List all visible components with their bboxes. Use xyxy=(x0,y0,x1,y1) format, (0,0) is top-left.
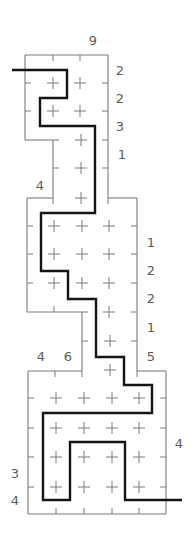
cross-mark xyxy=(50,392,62,404)
cross-mark xyxy=(103,248,115,260)
cross-mark xyxy=(106,422,118,434)
cross-mark xyxy=(106,451,118,463)
cross-mark xyxy=(75,134,87,146)
cross-mark xyxy=(133,392,145,404)
clue-number-right-10: 4 xyxy=(175,436,183,451)
clue-number-right-3: 3 xyxy=(116,119,124,134)
cross-mark xyxy=(106,481,118,493)
clue-number-right-7: 2 xyxy=(147,291,155,306)
cross-mark xyxy=(76,220,88,232)
clue-number-right-6: 2 xyxy=(147,263,155,278)
cross-mark xyxy=(48,248,60,260)
cross-mark xyxy=(75,162,87,174)
clue-number-right-2: 2 xyxy=(116,91,124,106)
cross-mark xyxy=(50,481,62,493)
clue-number-left-3: 3 xyxy=(11,466,19,481)
cross-mark xyxy=(75,192,87,204)
cross-mark xyxy=(78,481,90,493)
cross-mark xyxy=(78,392,90,404)
cross-mark xyxy=(103,277,115,289)
clue-number-right-5: 1 xyxy=(147,235,155,250)
cross-mark xyxy=(106,392,118,404)
path-puzzle-diagram: 9223141221546434 xyxy=(0,0,193,553)
clue-number-top-4: 4 xyxy=(37,349,45,364)
cross-mark xyxy=(50,451,62,463)
clue-number-right-1: 2 xyxy=(116,63,124,78)
solution-path-line xyxy=(12,70,182,500)
cross-mark xyxy=(78,422,90,434)
grid-outline xyxy=(25,55,166,514)
clue-number-right-8: 1 xyxy=(147,320,155,335)
clue-number-right-9: 5 xyxy=(147,349,155,364)
cross-mark xyxy=(78,451,90,463)
cross-mark xyxy=(103,306,115,318)
cross-mark xyxy=(48,220,60,232)
cross-mark xyxy=(76,248,88,260)
cross-mark xyxy=(133,481,145,493)
clue-number-left-4b: 4 xyxy=(11,493,19,508)
cross-mark xyxy=(74,77,86,89)
edge-ticks xyxy=(25,55,166,514)
cross-mark xyxy=(104,364,116,376)
cross-mark xyxy=(47,77,59,89)
cross-mark xyxy=(50,422,62,434)
cross-mark xyxy=(48,277,60,289)
clue-number-right-4: 1 xyxy=(118,147,126,162)
cross-mark xyxy=(76,277,88,289)
cross-mark xyxy=(104,335,116,347)
cross-mark xyxy=(74,105,86,117)
clue-number-top-9: 9 xyxy=(89,33,97,48)
clue-number-left-4a: 4 xyxy=(36,178,44,193)
clue-number-top-6: 6 xyxy=(64,349,72,364)
cross-mark xyxy=(47,105,59,117)
cross-mark xyxy=(103,220,115,232)
clue-numbers: 9223141221546434 xyxy=(11,33,183,508)
cross-mark xyxy=(133,422,145,434)
cross-mark xyxy=(133,451,145,463)
